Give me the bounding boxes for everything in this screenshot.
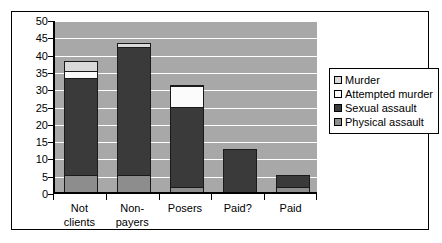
x-axis-category-label-line: clients [53,216,106,230]
y-axis-tick-label: 30 [36,85,48,96]
x-axis-category-label: Paid [264,202,317,216]
bar-segment[interactable] [276,175,310,187]
bar-segment[interactable] [276,187,310,192]
y-axis-tick-mark [48,194,53,195]
y-axis-tick-mark [48,21,53,22]
x-axis-category-label-line: payers [106,216,159,230]
bar-stack[interactable] [64,61,98,192]
bar-segment[interactable] [64,175,98,192]
y-axis-tick-mark [48,56,53,57]
legend-label: Attempted murder [345,89,433,100]
y-axis-tick-label: 40 [36,50,48,61]
x-axis-tick-mark [159,194,160,200]
y-axis-tick-label: 15 [36,137,48,148]
y-axis-tick-mark [48,125,53,126]
y-axis-tick-label: 25 [36,102,48,113]
legend-swatch [334,76,342,84]
y-axis-tick-mark [48,38,53,39]
gridline-50 [55,21,317,22]
legend-label: Murder [345,75,380,86]
bar-segment[interactable] [170,86,204,107]
legend-swatch [334,118,342,126]
legend-swatch [334,90,342,98]
x-axis-ticks [53,194,317,200]
legend-item[interactable]: Murder [334,73,433,87]
bar-stack[interactable] [276,175,310,192]
bar-stack[interactable] [223,149,257,192]
legend-item[interactable]: Attempted murder [334,87,433,101]
bar-segment[interactable] [64,61,98,71]
chart-frame: 05101520253035404550 NotclientsNon-payer… [11,11,429,230]
y-axis-tick-label: 35 [36,67,48,78]
y-axis-tick-mark [48,177,53,178]
bar-segment[interactable] [64,78,98,175]
y-axis-tick-mark [48,90,53,91]
plot-area [53,21,317,194]
y-axis-tick-label: 10 [36,154,48,165]
x-axis-category-label-line: Posers [159,202,212,216]
x-axis-category-label-line: Paid [264,202,317,216]
y-axis-tick-label: 45 [36,33,48,44]
bar-segment[interactable] [117,175,151,192]
x-axis-category-label-line: Paid? [211,202,264,216]
y-axis-tick-mark [48,159,53,160]
legend-label: Sexual assault [345,103,417,114]
y-axis: 05101520253035404550 [12,21,48,194]
x-axis-category-label: Notclients [53,202,106,230]
x-axis-tick-mark [264,194,265,200]
x-axis-category-label: Posers [159,202,212,216]
bar-segment[interactable] [170,107,204,187]
chart-legend: MurderAttempted murderSexual assaultPhys… [329,68,439,134]
legend-item[interactable]: Sexual assault [334,101,433,115]
x-axis-tick-mark [211,194,212,200]
x-axis-category-label-line: Not [53,202,106,216]
x-axis-category-label-line: Non- [106,202,159,216]
y-axis-tick-label: 50 [36,16,48,27]
y-axis-tick-mark [48,142,53,143]
bar-segment[interactable] [170,187,204,192]
legend-swatch [334,104,342,112]
bar-stack[interactable] [170,85,204,192]
gridline-40 [55,56,317,57]
y-axis-tick-mark [48,73,53,74]
x-axis-tick-mark [53,194,54,200]
bar-segment[interactable] [117,47,151,175]
gridline-45 [55,38,317,39]
legend-label: Physical assault [345,117,424,128]
bar-segment[interactable] [223,149,257,192]
x-axis-category-label: Non-payers [106,202,159,230]
y-axis-tick-label: 20 [36,119,48,130]
x-axis-category-label: Paid? [211,202,264,216]
bar-segment[interactable] [64,71,98,78]
x-axis-labels: NotclientsNon-payersPosersPaid?Paid [53,202,317,236]
y-axis-tick-mark [48,108,53,109]
legend-item[interactable]: Physical assault [334,115,433,129]
x-axis-tick-mark [106,194,107,200]
x-axis-tick-mark [316,194,317,200]
bar-stack[interactable] [117,43,151,192]
